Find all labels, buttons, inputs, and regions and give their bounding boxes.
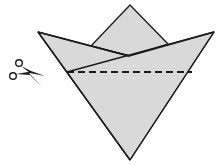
folding-diagram: [0, 0, 216, 165]
scissors-icon: [10, 60, 45, 86]
